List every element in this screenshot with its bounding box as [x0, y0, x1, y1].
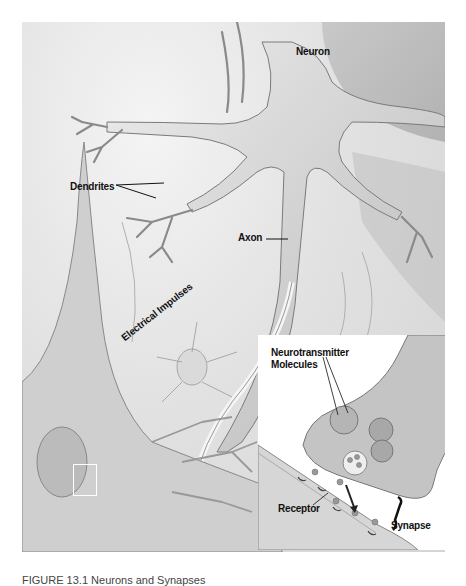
figure-caption: FIGURE 13.1 Neurons and Synapses	[22, 574, 205, 586]
label-receptor: Receptor	[278, 503, 320, 514]
dendrites-pointer-lines	[116, 180, 166, 210]
label-dendrites: Dendrites	[70, 181, 114, 192]
label-axon: Axon	[238, 232, 262, 243]
axon-pointer-line	[266, 237, 290, 241]
label-neurotransmitter-molecules: Neurotransmitter Molecules	[271, 347, 349, 371]
label-synapse: Synapse	[391, 520, 431, 531]
label-neuron: Neuron	[296, 46, 330, 57]
synapse-inset: Neurotransmitter Molecules Receptor Syna…	[258, 335, 445, 550]
label-neurotransmitter-line2: Molecules	[271, 359, 349, 371]
synapse-highlight-box	[73, 464, 97, 496]
label-neurotransmitter-line1: Neurotransmitter	[271, 347, 349, 359]
neuron-illustration: Neuron Dendrites Axon Electrical Impulse…	[22, 22, 445, 552]
